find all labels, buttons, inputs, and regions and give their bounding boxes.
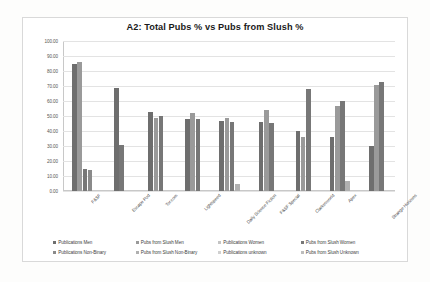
legend-swatch-icon bbox=[218, 251, 221, 254]
bar bbox=[219, 121, 224, 191]
bar bbox=[230, 122, 235, 191]
legend-label: Pubs from Slush Women bbox=[306, 240, 356, 245]
legend-item: Publications Men bbox=[53, 240, 136, 245]
bar bbox=[72, 64, 77, 192]
bar bbox=[301, 137, 306, 191]
x-axis-tick-label: F&SF Special bbox=[278, 193, 300, 215]
bar bbox=[296, 131, 301, 191]
bar-group bbox=[138, 41, 175, 191]
bar-group bbox=[174, 41, 211, 191]
y-axis-tick-label: 100.00 bbox=[45, 39, 58, 44]
scanned-page: A2: Total Pubs % vs Pubs from Slush % 10… bbox=[0, 0, 430, 282]
y-axis: 100.0090.0080.0070.0060.0050.0040.0030.0… bbox=[23, 41, 61, 191]
x-axis-tick-label: Tor.com bbox=[165, 193, 179, 207]
chart-legend: Publications MenPubs from Slush MenPubli… bbox=[53, 240, 383, 255]
legend-label: Publications Women bbox=[223, 240, 264, 245]
legend-item: Publications Women bbox=[218, 240, 301, 245]
bar bbox=[88, 170, 93, 191]
y-axis-tick-label: 0.00 bbox=[49, 189, 58, 194]
y-axis-tick-label: 90.00 bbox=[47, 54, 58, 59]
x-axis-tick-label: Daily Science Fiction bbox=[246, 193, 278, 225]
x-axis-tick-label: Lightspeed bbox=[203, 193, 221, 211]
bar bbox=[345, 181, 350, 192]
bar bbox=[119, 145, 124, 192]
bar bbox=[330, 137, 335, 191]
bar bbox=[185, 119, 190, 191]
bar bbox=[259, 122, 264, 191]
bar bbox=[196, 119, 201, 191]
legend-swatch-icon bbox=[53, 251, 56, 254]
y-axis-tick-label: 10.00 bbox=[47, 174, 58, 179]
x-axis-labels: F&SFEscape PodTor.comLightspeedDaily Sci… bbox=[64, 192, 395, 238]
y-axis-tick-label: 70.00 bbox=[47, 84, 58, 89]
bar bbox=[159, 116, 164, 191]
legend-item: Pubs from Slush Men bbox=[136, 240, 219, 245]
legend-item: Pubs from Slush Non-Binary bbox=[136, 250, 219, 255]
bar bbox=[335, 106, 340, 192]
bar bbox=[379, 82, 384, 192]
legend-label: Pubs from Slush Non-Binary bbox=[141, 250, 198, 255]
bar bbox=[235, 184, 240, 191]
legend-item: Publications Non-Binary bbox=[53, 250, 136, 255]
y-axis-tick-label: 30.00 bbox=[47, 144, 58, 149]
bar bbox=[374, 85, 379, 192]
legend-label: Pubs from Slush Men bbox=[141, 240, 184, 245]
legend-swatch-icon bbox=[301, 241, 304, 244]
y-axis-tick-label: 80.00 bbox=[47, 69, 58, 74]
bar bbox=[190, 113, 195, 191]
x-axis-tick-label: F&SF bbox=[90, 193, 101, 204]
bar-group bbox=[358, 41, 395, 191]
legend-swatch-icon bbox=[136, 251, 139, 254]
y-axis-tick-label: 20.00 bbox=[47, 159, 58, 164]
bar bbox=[225, 118, 230, 192]
bar-group bbox=[248, 41, 285, 191]
x-axis-tick-label: Apex bbox=[347, 193, 358, 204]
legend-swatch-icon bbox=[218, 241, 221, 244]
chart-title: A2: Total Pubs % vs Pubs from Slush % bbox=[23, 22, 407, 32]
bar bbox=[154, 118, 159, 192]
bar bbox=[269, 123, 274, 191]
bars-layer bbox=[64, 41, 395, 191]
legend-swatch-icon bbox=[136, 241, 139, 244]
bar bbox=[77, 62, 82, 191]
bar bbox=[148, 112, 153, 192]
legend-item: Publications unknown bbox=[218, 250, 301, 255]
chart-frame: A2: Total Pubs % vs Pubs from Slush % 10… bbox=[22, 17, 408, 262]
legend-swatch-icon bbox=[53, 241, 56, 244]
bar bbox=[306, 89, 311, 191]
bar bbox=[83, 169, 88, 192]
bar bbox=[340, 101, 345, 191]
bar-group bbox=[64, 41, 101, 191]
legend-label: Publications Men bbox=[58, 240, 92, 245]
y-axis-tick-label: 40.00 bbox=[47, 129, 58, 134]
bar bbox=[264, 110, 269, 191]
x-axis-tick-label: Strange Horizons bbox=[391, 193, 418, 220]
legend-item: Pubs from Slush Unknown bbox=[301, 250, 384, 255]
bar-group bbox=[321, 41, 358, 191]
legend-label: Publications Non-Binary bbox=[58, 250, 106, 255]
bar bbox=[369, 146, 374, 191]
bar-group bbox=[101, 41, 138, 191]
bar-group bbox=[211, 41, 248, 191]
y-axis-tick-label: 50.00 bbox=[47, 114, 58, 119]
x-axis-tick-label: Clarkesworld bbox=[315, 193, 336, 214]
legend-swatch-icon bbox=[301, 251, 304, 254]
legend-label: Publications unknown bbox=[223, 250, 266, 255]
x-axis-tick-label: Escape Pod bbox=[130, 193, 150, 213]
bar-group bbox=[285, 41, 322, 191]
y-axis-tick-label: 60.00 bbox=[47, 99, 58, 104]
legend-label: Pubs from Slush Unknown bbox=[306, 250, 359, 255]
bar bbox=[114, 88, 119, 192]
legend-item: Pubs from Slush Women bbox=[301, 240, 384, 245]
